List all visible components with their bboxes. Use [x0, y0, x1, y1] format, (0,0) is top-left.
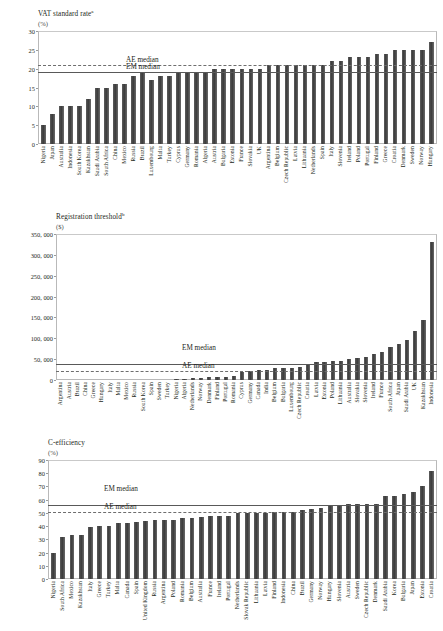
bar-item[interactable]	[104, 460, 113, 579]
bar-item[interactable]	[181, 234, 189, 380]
bar-item[interactable]	[169, 460, 178, 579]
bar-item[interactable]	[93, 31, 102, 144]
bar-item[interactable]	[57, 234, 65, 380]
bar-item[interactable]	[238, 234, 246, 380]
bar-item[interactable]	[73, 234, 81, 380]
bar-item[interactable]	[147, 31, 156, 144]
bar-item[interactable]	[90, 234, 98, 380]
bar-item[interactable]	[390, 460, 399, 579]
bar-item[interactable]	[215, 460, 224, 579]
bar-item[interactable]	[48, 31, 57, 144]
bar-item[interactable]	[115, 234, 123, 380]
bar-item[interactable]	[318, 31, 327, 144]
bar-item[interactable]	[411, 234, 419, 380]
bar-item[interactable]	[49, 460, 58, 579]
bar-item[interactable]	[337, 234, 345, 380]
bar-item[interactable]	[205, 234, 213, 380]
bar-item[interactable]	[192, 31, 201, 144]
bar-item[interactable]	[353, 234, 361, 380]
bar-item[interactable]	[75, 31, 84, 144]
bar-item[interactable]	[270, 460, 279, 579]
bar-item[interactable]	[206, 460, 215, 579]
bar-item[interactable]	[291, 31, 300, 144]
bar-item[interactable]	[213, 234, 221, 380]
bar-item[interactable]	[400, 31, 409, 144]
bar-item[interactable]	[189, 234, 197, 380]
bar-item[interactable]	[264, 31, 273, 144]
bar-item[interactable]	[386, 234, 394, 380]
bar-item[interactable]	[98, 234, 106, 380]
bar-item[interactable]	[335, 460, 344, 579]
bar-item[interactable]	[399, 460, 408, 579]
bar-item[interactable]	[346, 31, 355, 144]
bar-item[interactable]	[428, 234, 436, 380]
bar-item[interactable]	[418, 460, 427, 579]
bar-item[interactable]	[106, 234, 114, 380]
bar-item[interactable]	[228, 31, 237, 144]
bar-item[interactable]	[288, 234, 296, 380]
bar-item[interactable]	[298, 460, 307, 579]
bar-item[interactable]	[381, 460, 390, 579]
bar-item[interactable]	[370, 234, 378, 380]
bar-item[interactable]	[372, 460, 381, 579]
bar-item[interactable]	[255, 31, 264, 144]
bar-item[interactable]	[403, 234, 411, 380]
bar-item[interactable]	[312, 234, 320, 380]
bar-item[interactable]	[131, 234, 139, 380]
bar-item[interactable]	[65, 234, 73, 380]
bar-item[interactable]	[111, 31, 120, 144]
bar-item[interactable]	[362, 234, 370, 380]
bar-item[interactable]	[427, 31, 436, 144]
bar-item[interactable]	[129, 31, 138, 144]
bar-item[interactable]	[224, 460, 233, 579]
bar-item[interactable]	[307, 460, 316, 579]
bar-item[interactable]	[373, 31, 382, 144]
bar-item[interactable]	[296, 234, 304, 380]
bar-item[interactable]	[39, 31, 48, 144]
bar-item[interactable]	[164, 234, 172, 380]
bar-item[interactable]	[271, 234, 279, 380]
bar-item[interactable]	[263, 234, 271, 380]
bar-item[interactable]	[141, 460, 150, 579]
bar-item[interactable]	[156, 234, 164, 380]
bar-item[interactable]	[132, 460, 141, 579]
bar-item[interactable]	[326, 460, 335, 579]
bar-item[interactable]	[252, 460, 261, 579]
bar-item[interactable]	[279, 460, 288, 579]
bar-item[interactable]	[309, 31, 318, 144]
bar-item[interactable]	[395, 234, 403, 380]
bar-item[interactable]	[391, 31, 400, 144]
bar-item[interactable]	[67, 460, 76, 579]
bar-item[interactable]	[243, 460, 252, 579]
bar-item[interactable]	[222, 234, 230, 380]
bar-item[interactable]	[409, 460, 418, 579]
bar-item[interactable]	[183, 31, 192, 144]
bar-item[interactable]	[165, 31, 174, 144]
bar-item[interactable]	[279, 234, 287, 380]
bar-item[interactable]	[156, 31, 165, 144]
bar-item[interactable]	[321, 234, 329, 380]
bar-item[interactable]	[289, 460, 298, 579]
bar-item[interactable]	[328, 31, 337, 144]
bar-item[interactable]	[316, 460, 325, 579]
bar-item[interactable]	[282, 31, 291, 144]
bar-item[interactable]	[378, 234, 386, 380]
bar-item[interactable]	[201, 31, 210, 144]
bar-item[interactable]	[77, 460, 86, 579]
bar-item[interactable]	[362, 460, 371, 579]
bar-item[interactable]	[273, 31, 282, 144]
bar-item[interactable]	[95, 460, 104, 579]
bar-item[interactable]	[139, 234, 147, 380]
bar-item[interactable]	[160, 460, 169, 579]
bar-item[interactable]	[174, 31, 183, 144]
bar-item[interactable]	[187, 460, 196, 579]
bar-item[interactable]	[102, 31, 111, 144]
bar-item[interactable]	[246, 234, 254, 380]
bar-item[interactable]	[418, 31, 427, 144]
bar-item[interactable]	[409, 31, 418, 144]
bar-item[interactable]	[66, 31, 75, 144]
bar-item[interactable]	[197, 234, 205, 380]
bar-item[interactable]	[246, 31, 255, 144]
bar-item[interactable]	[82, 234, 90, 380]
bar-item[interactable]	[138, 31, 147, 144]
